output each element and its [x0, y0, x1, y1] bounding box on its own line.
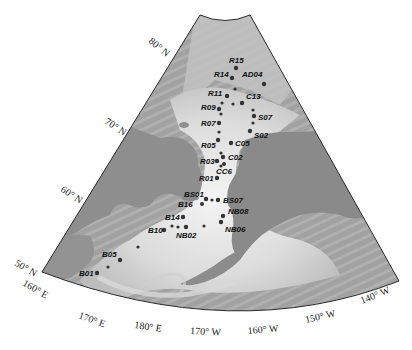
station-marker-c02 — [221, 155, 225, 159]
longitude-label: 160° W — [247, 322, 279, 336]
station-marker-nb02 — [184, 225, 188, 229]
station-marker-r15 — [234, 66, 238, 70]
station-marker-r14 — [230, 76, 234, 80]
station-label-nb08: NB08 — [228, 207, 249, 216]
station-label-c02: C02 — [228, 153, 243, 162]
longitude-label: 180° E — [134, 319, 163, 334]
longitude-label: 170° W — [190, 325, 222, 338]
station-marker-bs01 — [204, 197, 208, 201]
station-marker-b14 — [181, 215, 185, 219]
station-label-nb06: NB06 — [225, 225, 246, 234]
station-marker — [136, 245, 139, 248]
station-marker-bs07 — [216, 198, 220, 202]
station-marker — [233, 87, 236, 90]
station-map: R15R14AD04R11C13R09S07R07S02R05C05C02R03… — [0, 0, 412, 350]
station-label-b16: B16 — [178, 200, 193, 209]
station-marker — [210, 198, 213, 201]
station-label-b10: B10 — [148, 226, 163, 235]
station-label-s02: S02 — [254, 131, 269, 140]
longitude-label: 170° E — [77, 310, 107, 330]
station-marker-nb06 — [219, 220, 223, 224]
station-marker-c13 — [240, 101, 244, 105]
station-marker — [220, 101, 223, 104]
station-marker — [202, 224, 205, 227]
station-marker-ad04 — [262, 82, 266, 86]
station-marker-r05 — [216, 138, 220, 142]
station-label-r05: R05 — [201, 141, 216, 150]
station-marker — [231, 102, 234, 105]
station-marker-r03 — [215, 159, 219, 163]
station-marker — [219, 164, 222, 167]
station-marker — [219, 112, 222, 115]
station-label-s07: S07 — [258, 113, 273, 122]
station-label-b05: B05 — [102, 250, 117, 259]
station-label-c05: C05 — [235, 139, 250, 148]
station-label-r03: R03 — [200, 157, 215, 166]
station-marker-s07 — [252, 114, 256, 118]
station-marker-c05 — [229, 141, 233, 145]
station-label-bs01: BS01 — [184, 190, 205, 199]
station-label-nb02: NB02 — [176, 231, 197, 240]
station-marker-b05 — [118, 258, 122, 262]
station-label-cc6: CC6 — [216, 167, 233, 176]
station-label-r14: R14 — [214, 70, 229, 79]
station-marker — [176, 225, 179, 228]
station-label-c13: C13 — [246, 92, 261, 101]
station-label-r07: R07 — [201, 119, 216, 128]
station-label-ad04: AD04 — [241, 70, 263, 79]
station-label-r15: R15 — [229, 56, 244, 65]
latitude-label: 50° N — [13, 257, 39, 278]
station-label-r01: R01 — [199, 174, 214, 183]
station-label-b01: B01 — [79, 269, 94, 278]
station-marker-s02 — [248, 129, 252, 133]
station-marker-r11 — [225, 94, 229, 98]
station-marker — [106, 265, 109, 268]
latitude-label: 70° N — [103, 115, 129, 137]
station-label-b14: B14 — [165, 213, 180, 222]
station-marker — [217, 130, 220, 133]
station-marker-b01 — [95, 271, 99, 275]
latitude-label: 60° N — [59, 183, 85, 205]
longitude-label: 160° E — [21, 277, 50, 300]
station-marker-cc6 — [222, 162, 226, 166]
station-label-bs07: BS07 — [223, 196, 244, 205]
land-wrangel — [179, 122, 189, 128]
station-marker-r01 — [215, 176, 219, 180]
station-marker — [219, 151, 222, 154]
station-marker-r09 — [217, 107, 221, 111]
longitude-label: 150° W — [304, 307, 337, 325]
station-marker-r07 — [217, 121, 221, 125]
station-marker — [251, 108, 254, 111]
station-label-r11: R11 — [208, 89, 223, 98]
station-label-r09: R09 — [201, 103, 216, 112]
station-marker-nb08 — [221, 214, 225, 218]
latitude-label: 80° N — [147, 35, 172, 59]
station-marker-b16 — [200, 202, 204, 206]
station-marker — [251, 121, 254, 124]
station-marker — [170, 224, 173, 227]
